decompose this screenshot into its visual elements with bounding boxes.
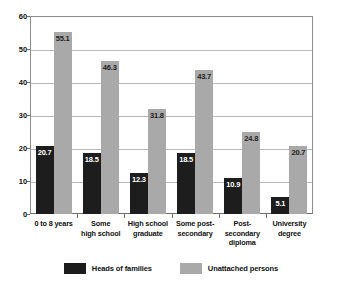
y-tick-label-60: 60 xyxy=(3,12,27,21)
bar: 10.9 xyxy=(224,178,242,214)
x-tick-label: 0 to 8 years xyxy=(30,219,77,229)
bar: 12.3 xyxy=(130,173,148,214)
x-tick-label: Universitydegree xyxy=(266,219,313,238)
legend-swatch xyxy=(64,263,86,274)
bar-group: 10.924.8 xyxy=(224,16,260,214)
gridline-30 xyxy=(31,116,312,117)
bar-group: 5.120.7 xyxy=(271,16,307,214)
bar: 43.7 xyxy=(195,70,213,214)
gridline-10 xyxy=(31,182,312,183)
bar: 46.3 xyxy=(101,61,119,214)
gridline-20 xyxy=(31,149,312,150)
y-tick-mark-0 xyxy=(27,214,30,215)
x-tick-label: High schoolgraduate xyxy=(124,219,171,238)
x-tick-mark xyxy=(219,214,220,218)
bar: 20.7 xyxy=(36,146,54,214)
gridline-50 xyxy=(31,50,312,51)
x-tick-mark xyxy=(124,214,125,218)
bar-chart-figure: 0102030405060 20.755.118.546.312.331.818… xyxy=(0,0,342,287)
legend-swatch xyxy=(180,263,202,274)
y-tick-label-10: 10 xyxy=(3,177,27,186)
bar-value-label: 46.3 xyxy=(101,63,119,72)
bar-value-label: 43.7 xyxy=(195,72,213,81)
bar-value-label: 20.7 xyxy=(289,148,307,157)
legend-label: Heads of families xyxy=(92,264,152,273)
x-tick-mark xyxy=(266,214,267,218)
bar-group: 20.755.1 xyxy=(36,16,72,214)
x-tick-mark xyxy=(77,214,78,218)
bar-value-label: 24.8 xyxy=(242,134,260,143)
x-tick-mark xyxy=(172,214,173,218)
legend-entry: Unattached persons xyxy=(180,263,278,274)
legend-label: Unattached persons xyxy=(208,264,278,273)
bar-value-label: 18.5 xyxy=(83,155,101,164)
y-tick-label-0: 0 xyxy=(3,210,27,219)
bar-group: 18.543.7 xyxy=(177,16,213,214)
bar-value-label: 5.1 xyxy=(271,199,289,208)
y-tick-label-40: 40 xyxy=(3,78,27,87)
bar: 24.8 xyxy=(242,132,260,214)
bar: 18.5 xyxy=(177,153,195,214)
gridline-40 xyxy=(31,83,312,84)
bar-value-label: 55.1 xyxy=(54,34,72,43)
bar: 20.7 xyxy=(289,146,307,214)
x-tick-label: Some post-secondary xyxy=(172,219,219,238)
legend-entry: Heads of families xyxy=(64,263,152,274)
x-tick-label: Post-secondarydiploma xyxy=(219,219,266,248)
bar-group: 18.546.3 xyxy=(83,16,119,214)
bar: 55.1 xyxy=(54,32,72,214)
bar-value-label: 18.5 xyxy=(177,155,195,164)
bar: 31.8 xyxy=(148,109,166,214)
bar: 5.1 xyxy=(271,197,289,214)
y-tick-label-30: 30 xyxy=(3,111,27,120)
y-tick-label-20: 20 xyxy=(3,144,27,153)
bar-value-label: 20.7 xyxy=(36,148,54,157)
chart-legend: Heads of familiesUnattached persons xyxy=(0,263,342,274)
bar-group: 12.331.8 xyxy=(130,16,166,214)
bar-value-label: 31.8 xyxy=(148,111,166,120)
y-tick-label-50: 50 xyxy=(3,45,27,54)
x-tick-label: Somehigh school xyxy=(77,219,124,238)
bar-value-label: 10.9 xyxy=(224,180,242,189)
bar: 18.5 xyxy=(83,153,101,214)
bar-value-label: 12.3 xyxy=(130,175,148,184)
